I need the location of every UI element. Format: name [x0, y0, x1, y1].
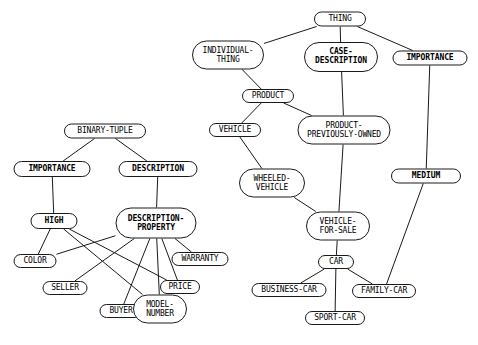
node-case-description[interactable]: CASE- DESCRIPTION [304, 42, 378, 72]
node-car[interactable]: CAR [318, 255, 354, 269]
semantic-network-diagram: THINGINDIVIDUAL- THINGCASE- DESCRIPTIONI… [0, 0, 478, 345]
node-sport-car[interactable]: SPORT-CAR [305, 311, 365, 325]
node-price[interactable]: PRICE [160, 280, 200, 294]
node-family-car[interactable]: FAMILY-CAR [352, 284, 416, 298]
node-product-prev[interactable]: PRODUCT- PREVIOUSLY-OWNED [298, 116, 391, 145]
node-layer: THINGINDIVIDUAL- THINGCASE- DESCRIPTIONI… [0, 0, 478, 345]
node-color[interactable]: COLOR [14, 254, 57, 268]
node-importance-left[interactable]: IMPORTANCE [14, 161, 91, 177]
node-importance-right[interactable]: IMPORTANCE [393, 51, 468, 66]
node-vehicle[interactable]: VEHICLE [209, 123, 261, 137]
node-description[interactable]: DESCRIPTION [119, 161, 198, 177]
node-binary-tuple[interactable]: BINARY-TUPLE [64, 124, 146, 139]
node-medium[interactable]: MEDIUM [391, 169, 461, 184]
node-model-number[interactable]: MODEL- NUMBER [133, 295, 187, 324]
node-individual-thing[interactable]: INDIVIDUAL- THING [192, 41, 264, 70]
node-business-car[interactable]: BUSINESS-CAR [252, 283, 327, 297]
node-high[interactable]: HIGH [31, 213, 78, 229]
node-warranty[interactable]: WARRANTY [172, 252, 229, 266]
node-vehicle-for-sale[interactable]: VEHICLE- FOR-SALE [306, 212, 370, 241]
node-seller[interactable]: SELLER [43, 281, 88, 295]
node-product[interactable]: PRODUCT [242, 89, 294, 103]
node-desc-property[interactable]: DESCRIPTION- PROPERTY [116, 208, 197, 239]
node-thing[interactable]: THING [314, 12, 366, 27]
node-wheeled-vehicle[interactable]: WHEELED- VEHICLE [239, 169, 305, 198]
